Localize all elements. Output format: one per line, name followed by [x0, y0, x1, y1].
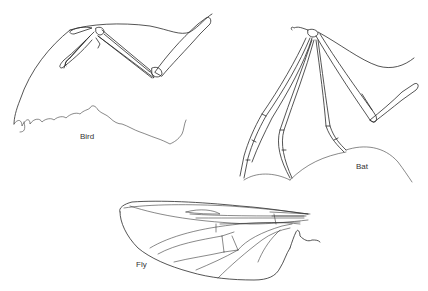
fly-label: Fly: [136, 261, 147, 269]
fly-wing-drawing: [0, 0, 428, 291]
wing-comparison-figure: Bird Bat: [0, 0, 428, 291]
